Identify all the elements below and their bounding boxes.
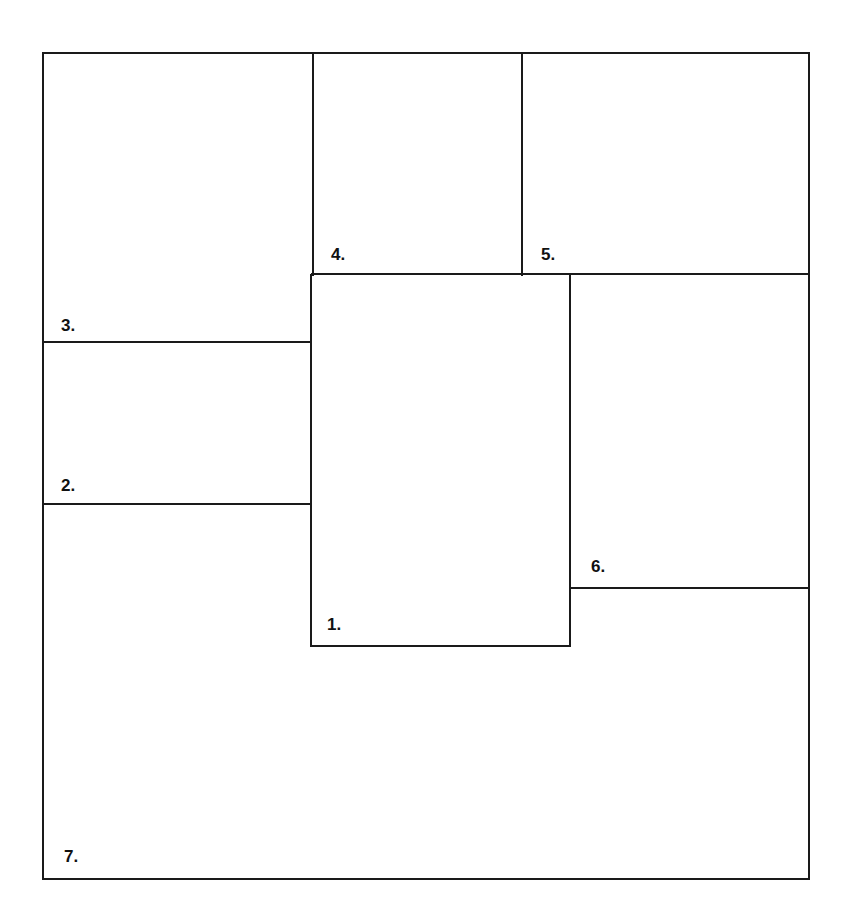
divider-1-6	[569, 274, 571, 647]
panel-2-label: 2.	[61, 477, 75, 494]
outer-frame-top	[43, 52, 810, 54]
panel-6-label: 6.	[591, 558, 605, 575]
panel-3-label: 3.	[61, 317, 75, 334]
divider-below-4-5	[311, 273, 809, 275]
panel-5-label: 5.	[541, 246, 555, 263]
divider-below-2	[42, 503, 311, 505]
panel-layout-diagram: 3. 4. 5. 2. 6. 1. 7.	[0, 0, 849, 915]
outer-frame-right	[808, 52, 810, 880]
panel-6-bottom	[570, 587, 809, 589]
panel-7-label: 7.	[64, 848, 78, 865]
panel-1-bottom	[310, 645, 571, 647]
outer-frame-bottom	[42, 878, 810, 880]
panel-1-label: 1.	[327, 616, 341, 633]
divider-below-3	[42, 341, 312, 343]
divider-left-column-1	[310, 274, 312, 647]
divider-3-4	[312, 52, 314, 276]
outer-frame-left	[42, 52, 44, 880]
panel-4-label: 4.	[331, 246, 345, 263]
divider-4-5	[521, 52, 523, 276]
